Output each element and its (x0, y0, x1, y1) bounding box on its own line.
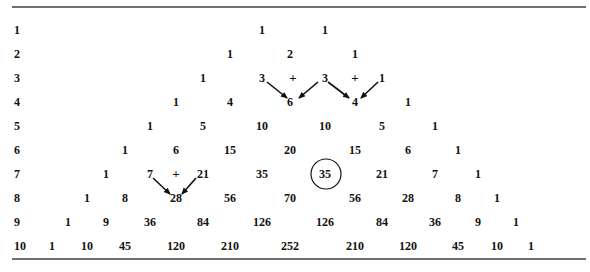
annotation-overlay (0, 0, 590, 272)
triangle-entry: 6 (173, 143, 179, 157)
bottom-rule (12, 258, 586, 260)
triangle-entry: 1 (405, 95, 411, 109)
triangle-entry: 1 (227, 47, 233, 61)
triangle-entry: 1 (122, 143, 128, 157)
triangle-entry: 1 (475, 167, 481, 181)
triangle-entry: 1 (352, 47, 358, 61)
triangle-entry: 3 (322, 71, 328, 85)
triangle-entry: 1 (200, 71, 206, 85)
row-label: 5 (14, 119, 20, 133)
triangle-entry: 56 (349, 191, 361, 205)
arrow-1-to-4-right (361, 82, 378, 98)
plus-sign: + (289, 71, 296, 85)
triangle-entry: 9 (103, 215, 109, 229)
triangle-entry: 7 (432, 167, 438, 181)
triangle-entry: 8 (455, 191, 461, 205)
triangle-entry: 126 (316, 215, 334, 229)
row-label: 10 (14, 239, 26, 253)
triangle-entry: 56 (224, 191, 236, 205)
triangle-entry: 1 (259, 23, 265, 37)
triangle-entry: 4 (227, 95, 233, 109)
triangle-entry: 5 (379, 119, 385, 133)
row-label: 4 (14, 95, 20, 109)
row-label: 9 (14, 215, 20, 229)
triangle-entry: 7 (147, 167, 153, 181)
triangle-entry: 21 (197, 167, 209, 181)
row-label: 6 (14, 143, 20, 157)
row-label: 2 (14, 47, 20, 61)
row-label: 8 (14, 191, 20, 205)
triangle-entry: 10 (319, 119, 331, 133)
arrow-3-to-6-left (267, 82, 287, 98)
triangle-entry: 1 (494, 191, 500, 205)
row-label: 7 (14, 167, 20, 181)
triangle-entry: 10 (256, 119, 268, 133)
triangle-entry: 15 (349, 143, 361, 157)
triangle-entry: 10 (81, 239, 93, 253)
triangle-entry: 1 (65, 215, 71, 229)
triangle-entry: 126 (253, 215, 271, 229)
plus-sign: + (172, 167, 179, 181)
arrow-3-to-4-left (328, 82, 349, 98)
plus-sign: + (351, 71, 358, 85)
arrow-7-to-28 (153, 178, 170, 194)
triangle-entry: 1 (147, 119, 153, 133)
triangle-entry: 210 (221, 239, 239, 253)
triangle-entry: 35 (319, 167, 331, 181)
triangle-entry: 1 (322, 23, 328, 37)
triangle-entry: 1 (513, 215, 519, 229)
triangle-entry: 9 (475, 215, 481, 229)
triangle-entry: 20 (284, 143, 296, 157)
triangle-entry: 3 (259, 71, 265, 85)
arrow-21-to-28 (182, 178, 196, 194)
row-label: 1 (14, 23, 20, 37)
triangle-entry: 35 (256, 167, 268, 181)
triangle-entry: 10 (491, 239, 503, 253)
triangle-entry: 6 (287, 95, 293, 109)
triangle-entry: 5 (200, 119, 206, 133)
triangle-entry: 1 (84, 191, 90, 205)
triangle-entry: 84 (197, 215, 209, 229)
triangle-entry: 28 (170, 191, 182, 205)
triangle-entry: 2 (287, 47, 293, 61)
triangle-entry: 1 (432, 119, 438, 133)
triangle-entry: 6 (405, 143, 411, 157)
triangle-entry: 1 (173, 95, 179, 109)
triangle-entry: 4 (352, 95, 358, 109)
triangle-entry: 1 (103, 167, 109, 181)
triangle-entry: 45 (119, 239, 131, 253)
triangle-entry: 120 (167, 239, 185, 253)
triangle-entry: 120 (399, 239, 417, 253)
triangle-entry: 36 (429, 215, 441, 229)
triangle-entry: 1 (455, 143, 461, 157)
triangle-entry: 1 (379, 71, 385, 85)
triangle-entry: 1 (528, 239, 534, 253)
triangle-entry: 252 (281, 239, 299, 253)
triangle-entry: 8 (122, 191, 128, 205)
triangle-entry: 1 (49, 239, 55, 253)
arrow-3-to-6-right (299, 82, 318, 98)
triangle-entry: 36 (144, 215, 156, 229)
triangle-entry: 84 (376, 215, 388, 229)
row-label: 3 (14, 71, 20, 85)
triangle-entry: 45 (452, 239, 464, 253)
triangle-entry: 15 (224, 143, 236, 157)
triangle-entry: 28 (402, 191, 414, 205)
triangle-entry: 21 (376, 167, 388, 181)
triangle-entry: 210 (346, 239, 364, 253)
top-rule (12, 6, 586, 8)
triangle-entry: 70 (284, 191, 296, 205)
